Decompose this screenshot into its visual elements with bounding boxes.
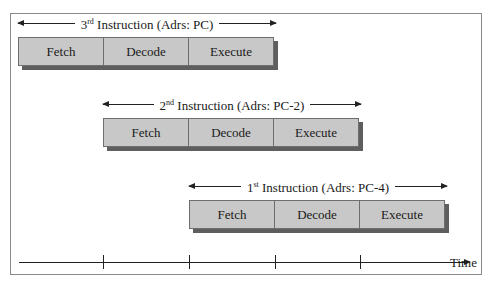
pipeline-stages: Fetch Decode Execute — [18, 37, 274, 66]
left-arrow-icon — [103, 95, 154, 113]
left-arrow-icon — [189, 177, 241, 195]
instruction-label-line: 3rd Instruction (Adrs: PC) — [18, 14, 276, 32]
stage-fetch: Fetch — [18, 37, 104, 66]
stage-execute: Execute — [189, 37, 274, 66]
stage-execute: Execute — [274, 118, 359, 147]
time-axis-line — [19, 262, 469, 263]
time-tick — [360, 255, 361, 269]
pipeline-stages: Fetch Decode Execute — [103, 118, 359, 147]
stage-execute: Execute — [360, 200, 445, 229]
stage-decode: Decode — [104, 37, 189, 66]
time-axis-label: Time — [450, 255, 477, 271]
time-tick — [103, 255, 104, 269]
instruction-row-3rd: 3rd Instruction (Adrs: PC) Fetch Decode … — [18, 14, 276, 68]
stage-decode: Decode — [275, 200, 360, 229]
time-axis — [19, 262, 469, 264]
stage-fetch: Fetch — [103, 118, 189, 147]
instruction-row-1st: 1st Instruction (Adrs: PC-4) Fetch Decod… — [189, 177, 447, 231]
time-tick — [189, 255, 190, 269]
right-arrow-icon — [219, 14, 276, 32]
time-tick — [275, 255, 276, 269]
right-arrow-icon — [310, 95, 361, 113]
instruction-label-line: 1st Instruction (Adrs: PC-4) — [189, 177, 447, 195]
stage-fetch: Fetch — [189, 200, 275, 229]
instruction-label-line: 2nd Instruction (Adrs: PC-2) — [103, 95, 361, 113]
pipeline-stages: Fetch Decode Execute — [189, 200, 445, 229]
left-arrow-icon — [18, 14, 75, 32]
instruction-label: 1st Instruction (Adrs: PC-4) — [241, 176, 395, 197]
stage-decode: Decode — [189, 118, 274, 147]
instruction-label: 2nd Instruction (Adrs: PC-2) — [154, 94, 311, 115]
instruction-label: 3rd Instruction (Adrs: PC) — [75, 13, 220, 34]
instruction-row-2nd: 2nd Instruction (Adrs: PC-2) Fetch Decod… — [103, 95, 361, 149]
right-arrow-icon — [395, 177, 447, 195]
